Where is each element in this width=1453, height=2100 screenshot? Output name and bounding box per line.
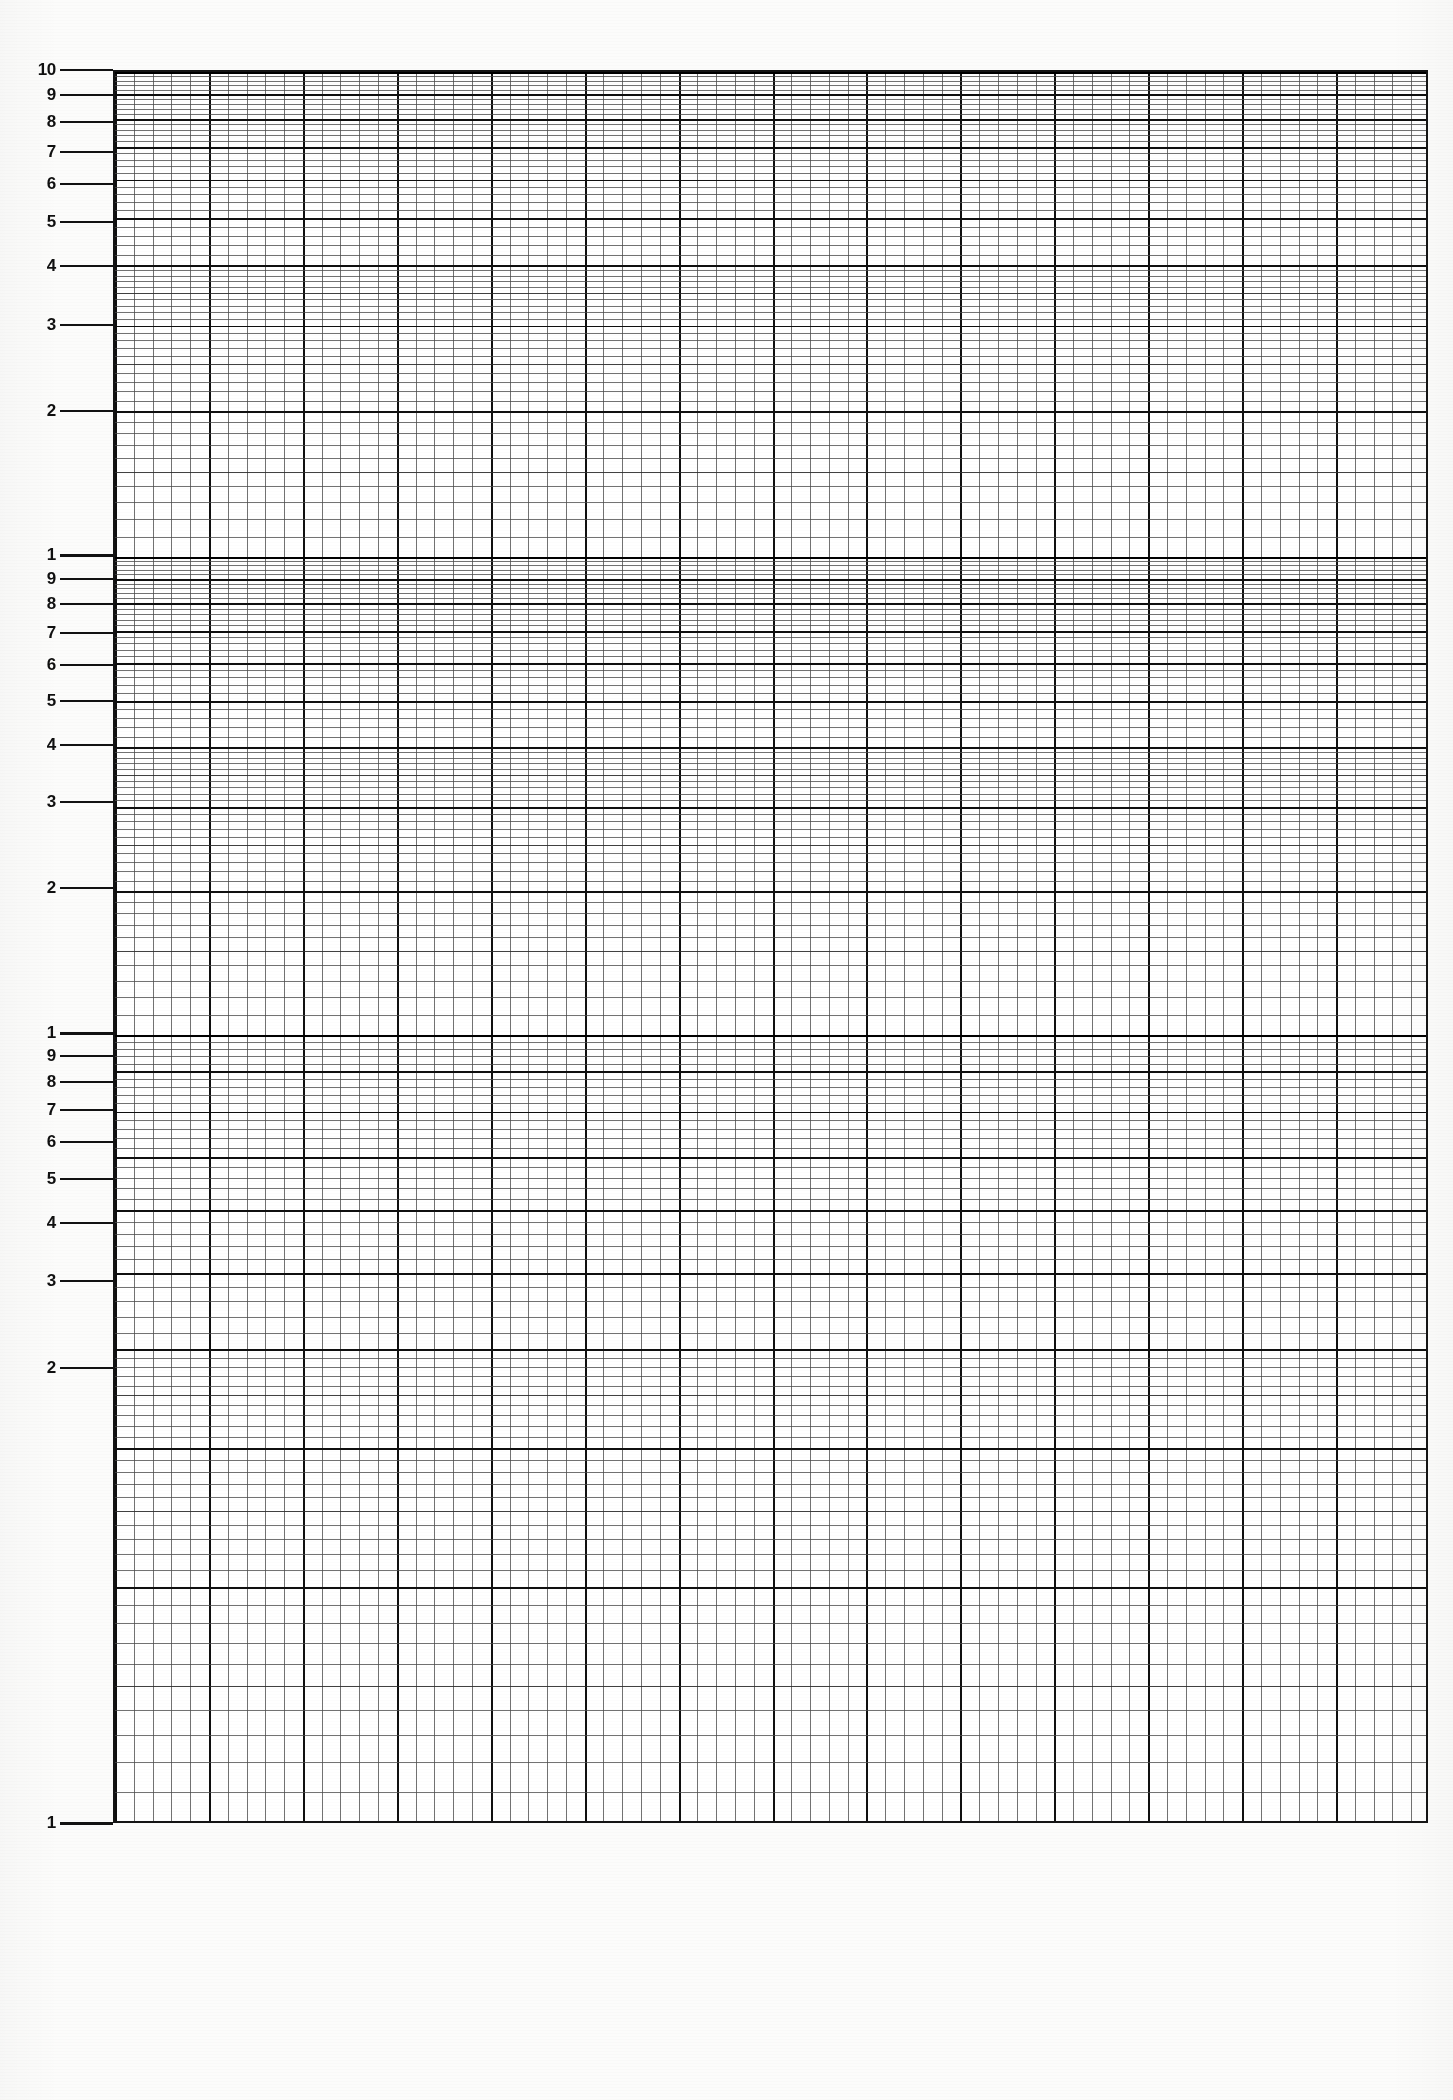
y-axis-tick-label: 4 <box>8 736 56 753</box>
y-major-gridline <box>115 1071 1426 1073</box>
y-minor-gridline <box>115 837 1426 838</box>
x-minor-gridline <box>359 72 360 1821</box>
y-minor-gridline <box>115 1079 1426 1080</box>
y-minor-gridline <box>115 1234 1426 1235</box>
y-mid-gridline <box>115 293 1426 294</box>
y-minor-gridline <box>115 609 1426 610</box>
y-axis-tick-label: 4 <box>8 1214 56 1231</box>
y-major-gridline <box>115 701 1426 703</box>
y-minor-gridline <box>115 99 1426 100</box>
y-minor-gridline <box>115 135 1426 136</box>
x-minor-gridline <box>134 72 135 1821</box>
y-minor-gridline <box>115 614 1426 615</box>
y-mid-gridline <box>115 845 1426 846</box>
x-major-gridline <box>1336 72 1338 1821</box>
y-minor-gridline <box>115 1056 1426 1057</box>
x-minor-gridline <box>247 72 248 1821</box>
y-axis-tick-label: 6 <box>8 175 56 192</box>
y-minor-gridline <box>115 348 1426 349</box>
y-minor-gridline <box>115 677 1426 678</box>
y-minor-gridline <box>115 1129 1426 1130</box>
x-minor-gridline <box>1186 72 1187 1821</box>
y-minor-gridline <box>115 574 1426 575</box>
x-minor-gridline <box>1017 72 1018 1821</box>
y-minor-gridline <box>115 90 1426 91</box>
y-minor-gridline <box>115 1178 1426 1179</box>
x-minor-gridline <box>660 72 661 1821</box>
x-minor-gridline <box>1129 72 1130 1821</box>
x-minor-gridline <box>1299 72 1300 1821</box>
x-major-gridline <box>585 72 587 1821</box>
x-minor-gridline <box>1411 72 1412 1821</box>
y-minor-gridline <box>115 1376 1426 1377</box>
y-minor-gridline <box>115 763 1426 764</box>
y-minor-gridline <box>115 255 1426 256</box>
y-minor-gridline <box>115 1103 1426 1104</box>
x-minor-gridline <box>1167 72 1168 1821</box>
x-major-gridline <box>1242 72 1244 1821</box>
y-major-gridline <box>115 1273 1426 1275</box>
x-major-gridline <box>115 72 117 1821</box>
log-grid-plot-area[interactable] <box>113 70 1428 1823</box>
x-minor-gridline <box>622 72 623 1821</box>
y-minor-gridline <box>115 769 1426 770</box>
x-major-gridline <box>491 72 493 1821</box>
y-minor-gridline <box>115 1049 1426 1050</box>
y-major-gridline <box>115 1448 1426 1450</box>
y-mid-gridline <box>115 1395 1426 1396</box>
y-major-gridline <box>115 326 1426 328</box>
y-minor-gridline <box>115 306 1426 307</box>
y-axis-tick-leader <box>60 121 113 123</box>
y-axis-tick-label: 9 <box>8 86 56 103</box>
y-minor-gridline <box>115 1386 1426 1387</box>
y-minor-gridline <box>115 670 1426 671</box>
y-minor-gridline <box>115 210 1426 211</box>
y-minor-gridline <box>115 821 1426 822</box>
y-minor-gridline <box>115 299 1426 300</box>
y-minor-gridline <box>115 141 1426 142</box>
y-major-gridline <box>115 663 1426 665</box>
y-minor-gridline <box>115 1015 1426 1016</box>
y-axis-tick-leader <box>60 1222 113 1224</box>
y-minor-gridline <box>115 1317 1426 1318</box>
y-axis-tick-leader <box>60 410 113 412</box>
y-axis-tick-leader <box>60 265 113 267</box>
y-minor-gridline <box>115 1710 1426 1711</box>
y-axis-tick-label: 6 <box>8 1133 56 1150</box>
y-minor-gridline <box>115 114 1426 115</box>
y-minor-gridline <box>115 537 1426 538</box>
y-decade-gridline <box>115 72 1426 74</box>
y-minor-gridline <box>115 1415 1426 1416</box>
x-major-gridline <box>679 72 681 1821</box>
y-minor-gridline <box>115 281 1426 282</box>
y-axis-tick-label: 7 <box>8 1101 56 1118</box>
y-minor-gridline <box>115 584 1426 585</box>
x-minor-gridline <box>1392 72 1393 1821</box>
y-minor-gridline <box>115 340 1426 341</box>
y-minor-gridline <box>115 718 1426 719</box>
y-minor-gridline <box>115 166 1426 167</box>
y-minor-gridline <box>115 333 1426 334</box>
y-minor-gridline <box>115 593 1426 594</box>
y-axis-tick-leader <box>60 887 113 889</box>
x-minor-gridline <box>885 72 886 1821</box>
y-axis-tick-label: 5 <box>8 213 56 230</box>
x-minor-gridline <box>416 72 417 1821</box>
y-minor-gridline <box>115 1358 1426 1359</box>
y-minor-gridline <box>115 1333 1426 1334</box>
y-minor-gridline <box>115 637 1426 638</box>
y-minor-gridline <box>115 373 1426 374</box>
y-axis-tick-leader <box>60 1055 113 1057</box>
x-minor-gridline <box>829 72 830 1821</box>
y-minor-gridline <box>115 1259 1426 1260</box>
x-minor-gridline <box>284 72 285 1821</box>
y-minor-gridline <box>115 752 1426 753</box>
y-axis-tick-label: 9 <box>8 570 56 587</box>
x-minor-gridline <box>735 72 736 1821</box>
x-minor-gridline <box>848 72 849 1821</box>
y-minor-gridline <box>115 1405 1426 1406</box>
y-minor-gridline <box>115 76 1426 77</box>
y-minor-gridline <box>115 319 1426 320</box>
y-minor-gridline <box>115 124 1426 125</box>
x-minor-gridline <box>322 72 323 1821</box>
